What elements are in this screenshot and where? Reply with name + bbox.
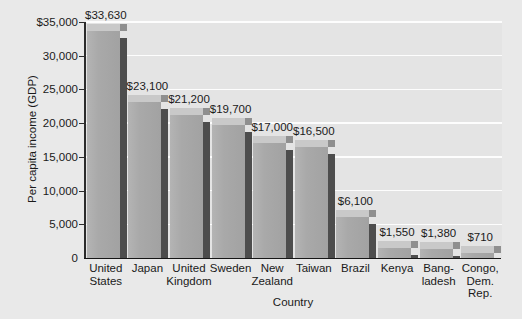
bar[interactable] [128,102,161,258]
x-tick-label: Brazil [341,262,370,275]
y-tick-mark [79,89,85,90]
y-tick-mark [79,157,85,158]
bar-side-face [328,154,335,258]
bar-front-face [253,143,286,258]
y-tick-label: 30,000 [14,50,78,62]
bar-top-corner [494,246,501,253]
bar-top-face [336,210,369,217]
bar-value-label: $21,200 [168,93,210,105]
bar-side-face [286,150,293,258]
bar-side-face [245,132,252,258]
bar-value-label: $33,630 [85,9,127,21]
y-tick-label: 0 [14,252,78,264]
bar-side-face [453,256,460,258]
bar-top-face [253,136,286,143]
bar-top-corner [369,210,376,217]
y-tick-label: 20,000 [14,117,78,129]
bar-front-face [212,125,245,258]
y-tick-label: 5,000 [14,218,78,230]
x-tick-label: New Zealand [251,262,293,287]
bar-front-face [378,248,411,258]
y-tick-label: 10,000 [14,185,78,197]
bar-front-face [87,31,120,258]
bar-value-label: $6,100 [338,195,373,207]
bar-top-corner [286,136,293,143]
x-tick-label: United States [89,262,122,287]
bar-side-face [120,38,127,258]
x-tick-label: Congo, Dem. Rep. [462,262,499,300]
y-tick-label: $35,000 [14,16,78,28]
y-tick-mark [79,22,85,23]
bar-top-face [295,140,328,147]
x-tick-label: Bang- ladesh [422,262,456,287]
y-axis-tick-labels: 05,00010,00015,00020,00025,00030,000$35,… [14,0,78,319]
bar[interactable] [295,147,328,258]
bar-front-face [170,115,203,258]
bar[interactable] [87,31,120,258]
plot-area [85,22,502,258]
bar-top-corner [453,242,460,249]
bar-top-corner [120,24,127,31]
x-tick-label: United Kingdom [166,262,211,287]
y-tick-mark [79,191,85,192]
bar[interactable] [420,249,453,258]
x-tick-label: Taiwan [296,262,332,275]
bar[interactable] [336,217,369,258]
bar-side-face [203,122,210,258]
bar-front-face [336,217,369,258]
bar[interactable] [212,125,245,258]
gridline [86,21,502,23]
bar-value-label: $1,550 [379,226,414,238]
bar-top-face [461,246,494,253]
y-tick-label: 15,000 [14,151,78,163]
bar-value-label: $710 [467,231,493,243]
y-tick-mark [79,56,85,57]
x-tick-label: Japan [132,262,163,275]
bar-top-face [128,95,161,102]
bar-value-label: $16,500 [293,125,335,137]
x-tick-label: Sweden [210,262,252,275]
bar-value-label: $23,100 [127,80,169,92]
bar-top-face [87,24,120,31]
y-tick-mark [79,224,85,225]
bar-side-face [411,255,418,258]
bar[interactable] [253,143,286,258]
bar-top-corner [411,241,418,248]
x-tick-label: Kenya [381,262,414,275]
bar[interactable] [378,248,411,258]
bar-front-face [295,147,328,258]
bar[interactable] [170,115,203,258]
bar[interactable] [461,253,494,258]
y-tick-mark [79,123,85,124]
bar-top-face [212,118,245,125]
bar-value-label: $17,000 [251,121,293,133]
bar-value-label: $1,380 [421,227,456,239]
bar-front-face [461,253,494,258]
bar-value-label: $19,700 [210,103,252,115]
bar-side-face [161,109,168,258]
bar-top-face [378,241,411,248]
bar-side-face [369,224,376,258]
bar-top-face [170,108,203,115]
y-tick-label: 25,000 [14,83,78,95]
bar-top-corner [328,140,335,147]
bar-chart: Per capita income (GDP) 05,00010,00015,0… [0,0,522,319]
x-axis-title: Country [273,296,313,308]
bar-top-face [420,242,453,249]
gridline [86,55,502,57]
bar-front-face [128,102,161,258]
bar-front-face [420,249,453,258]
